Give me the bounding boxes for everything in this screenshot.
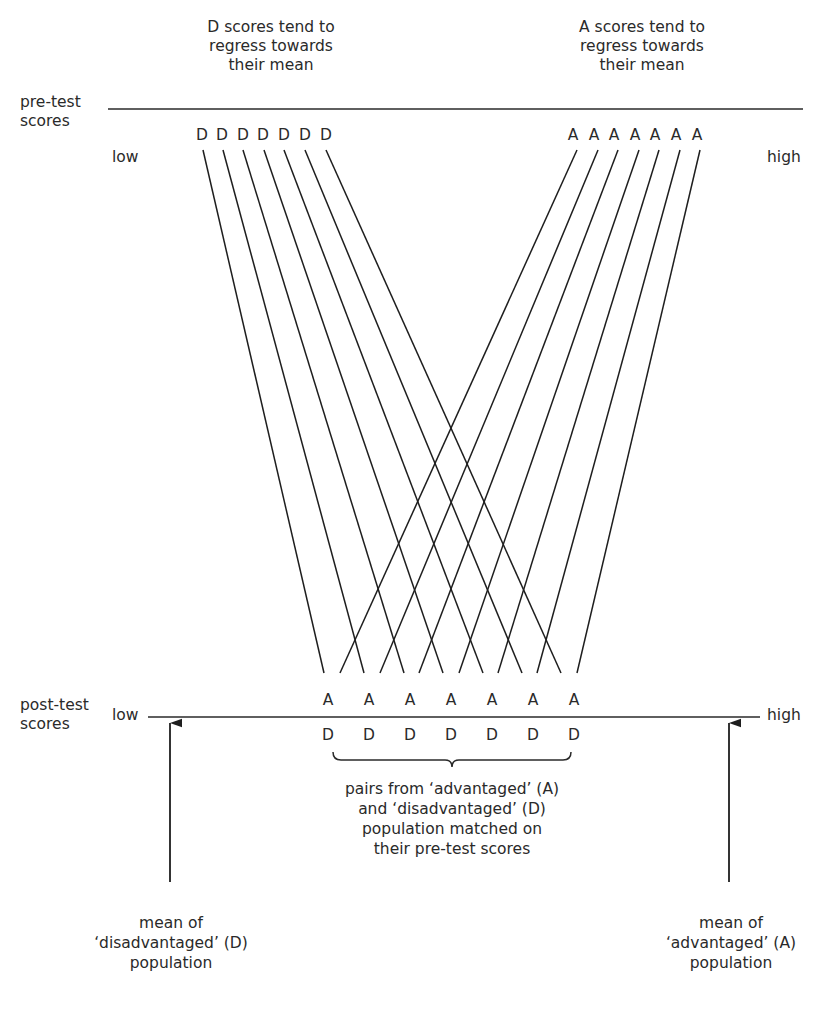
- post-d-letter: D: [404, 727, 416, 743]
- a-regression-lines: [340, 150, 700, 673]
- post-d-letter: D: [527, 727, 539, 743]
- pre-d-letter: D: [216, 127, 228, 143]
- post-a-letter: A: [364, 692, 375, 708]
- post-test-label: post-test scores: [20, 696, 89, 734]
- pre-a-letter: A: [568, 127, 579, 143]
- post-test-low-label: low: [112, 706, 138, 725]
- post-a-letter: A: [528, 692, 539, 708]
- pairs-brace: [333, 752, 571, 767]
- pre-test-label: pre-test scores: [20, 93, 81, 131]
- post-d-letter: D: [445, 727, 457, 743]
- pre-test-low-label: low: [112, 148, 138, 167]
- pre-d-letter: D: [237, 127, 249, 143]
- pre-a-letter: A: [692, 127, 703, 143]
- pre-d-letter: D: [320, 127, 332, 143]
- pre-a-letter: A: [609, 127, 620, 143]
- post-a-letter: A: [487, 692, 498, 708]
- mean-d-label: mean of ‘disadvantaged’ (D) population: [94, 913, 248, 973]
- pre-a-letter: A: [589, 127, 600, 143]
- pre-a-letter: A: [630, 127, 641, 143]
- post-d-letter: D: [363, 727, 375, 743]
- mean-a-label: mean of ‘advantaged’ (A) population: [666, 913, 796, 973]
- post-d-letter: D: [486, 727, 498, 743]
- d-regress-annotation: D scores tend to regress towards their m…: [207, 18, 334, 75]
- pairs-note: pairs from ‘advantaged’ (A) and ‘disadva…: [345, 779, 559, 859]
- pre-d-letter: D: [299, 127, 311, 143]
- post-a-letter: A: [569, 692, 580, 708]
- post-a-letter: A: [405, 692, 416, 708]
- pre-d-letter: D: [257, 127, 269, 143]
- post-d-letter: D: [568, 727, 580, 743]
- pre-d-letter: D: [196, 127, 208, 143]
- post-a-letter: A: [446, 692, 457, 708]
- pre-a-letter: A: [671, 127, 682, 143]
- post-d-letter: D: [322, 727, 334, 743]
- d-regression-lines: [203, 150, 561, 673]
- pre-test-high-label: high: [767, 148, 801, 167]
- pre-a-letter: A: [650, 127, 661, 143]
- a-regress-annotation: A scores tend to regress towards their m…: [579, 18, 705, 75]
- pre-d-letter: D: [278, 127, 290, 143]
- post-a-letter: A: [323, 692, 334, 708]
- post-test-high-label: high: [767, 706, 801, 725]
